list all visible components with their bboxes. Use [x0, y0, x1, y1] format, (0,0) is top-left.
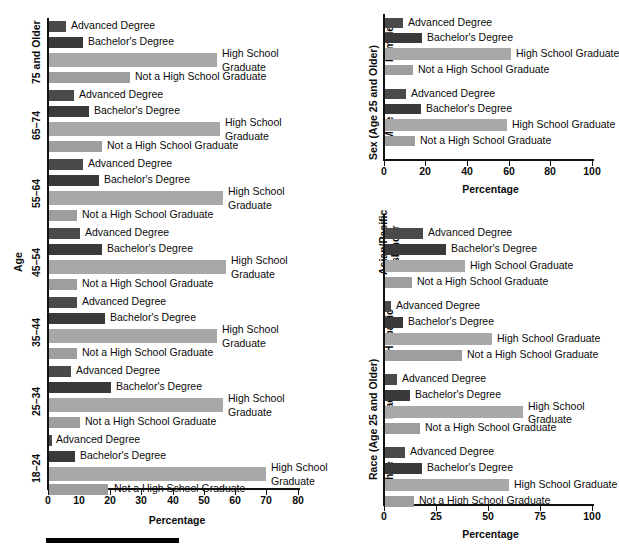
bar-age-55-hs — [49, 191, 223, 205]
age-ticklabel-50: 50 — [198, 495, 210, 506]
bar-race-black-hs — [385, 406, 523, 418]
age-ticklabel-20: 20 — [104, 495, 116, 506]
barlabel-race-white-hs: High School Graduate — [514, 479, 617, 491]
age-ticklabel-10: 10 — [73, 495, 85, 506]
sex-x-axis — [383, 159, 594, 161]
barlabel-age-45-bachelors: Bachelor's Degree — [107, 243, 193, 255]
bar-race-white-nohs — [385, 496, 414, 507]
bar-age-45-advanced — [49, 228, 80, 239]
bar-race-white-advanced — [385, 447, 405, 458]
sex-x-axis-title: Percentage — [428, 183, 553, 195]
sex-ticklabel-0: 0 — [381, 166, 387, 177]
bar-age-45-hs — [49, 260, 226, 274]
barlabel-age-65-advanced: Advanced Degree — [79, 89, 163, 101]
sex-plot-area: 0 20 40 60 80 100 Percentage Advanced De… — [383, 14, 598, 159]
barlabel-age-35-hs-line1: High School — [222, 324, 284, 336]
sex-ticklabel-80: 80 — [544, 166, 556, 177]
group-label-25-34: 25–34 — [30, 387, 42, 416]
barlabel-age-25-advanced: Advanced Degree — [76, 365, 160, 377]
chart-age: Age 75 and Older 65–74 55–64 45–54 35–44… — [0, 0, 340, 556]
bar-race-white-bachelors — [385, 463, 422, 474]
barlabel-age-35-nohs: Not a High School Graduate — [82, 347, 213, 359]
barlabel-age-55-hs-line1: High School — [228, 186, 290, 198]
barlabel-race-black-nohs: Not a High School Graduate — [425, 422, 556, 434]
barlabel-age-18-hs-line1: High School — [271, 462, 333, 474]
bar-sex-female-advanced — [385, 18, 403, 28]
bar-age-65-hs — [49, 122, 220, 136]
bar-age-35-nohs — [49, 348, 77, 359]
barlabel-age-55-bachelors: Bachelor's Degree — [104, 174, 190, 186]
bar-race-hispanic-nohs — [385, 350, 462, 361]
barlabel-age-18-hs-line2: Graduate — [271, 476, 333, 488]
barlabel-sex-male-nohs: Not a High School Graduate — [420, 135, 551, 147]
barlabel-age-25-hs-line1: High School — [228, 393, 290, 405]
bar-age-75-hs — [49, 53, 217, 67]
barlabel-race-api-bachelors: Bachelor's Degree — [451, 243, 537, 255]
bar-age-55-advanced — [49, 159, 83, 170]
bar-race-black-bachelors — [385, 390, 410, 401]
barlabel-sex-male-advanced: Advanced Degree — [411, 88, 495, 100]
barlabel-race-black-hs-line1: High School — [528, 401, 598, 413]
age-plot-area: 0 10 20 30 40 50 60 70 80 Percentage Adv… — [47, 18, 302, 488]
group-label-65-74: 65–74 — [30, 111, 42, 140]
bar-race-black-nohs — [385, 423, 420, 434]
barlabel-age-35-bachelors: Bachelor's Degree — [110, 312, 196, 324]
group-label-75-and-older: 75 and Older — [30, 20, 42, 84]
barlabel-race-black-bachelors: Bachelor's Degree — [415, 389, 501, 401]
bar-age-18-bachelors — [49, 451, 75, 462]
barlabel-age-18-nohs: Not a High School Graduate — [114, 483, 245, 495]
bar-sex-male-advanced — [385, 89, 406, 99]
barlabel-sex-female-nohs: Not a High School Graduate — [418, 64, 549, 76]
barlabel-age-55-nohs: Not a High School Graduate — [82, 209, 213, 221]
barlabel-age-55-hs-line2: Graduate — [228, 200, 290, 212]
age-ticklabel-60: 60 — [229, 495, 241, 506]
barlabel-sex-female-bachelors: Bachelor's Degree — [427, 32, 513, 44]
bar-sex-male-bachelors — [385, 104, 421, 114]
barlabel-age-45-nohs: Not a High School Graduate — [82, 278, 213, 290]
barlabel-age-18-bachelors: Bachelor's Degree — [80, 450, 166, 462]
age-axis-title: Age — [12, 252, 24, 272]
age-x-axis-title: Percentage — [107, 514, 247, 526]
footer-rule — [46, 538, 179, 543]
bar-age-65-bachelors — [49, 106, 89, 117]
race-ticklabel-25: 25 — [430, 511, 442, 522]
barlabel-age-55-advanced: Advanced Degree — [88, 158, 172, 170]
barlabel-sex-female-advanced: Advanced Degree — [408, 17, 492, 29]
bar-age-65-advanced — [49, 90, 74, 101]
group-label-45-54: 45–54 — [30, 248, 42, 277]
bar-race-hispanic-hs — [385, 333, 492, 345]
bar-sex-male-nohs — [385, 136, 415, 146]
barlabel-race-white-bachelors: Bachelor's Degree — [427, 462, 513, 474]
barlabel-sex-female-hs: High School Graduate — [516, 48, 619, 60]
sex-ticklabel-40: 40 — [461, 166, 473, 177]
barlabel-age-25-bachelors: Bachelor's Degree — [116, 381, 202, 393]
barlabel-age-18-advanced: Advanced Degree — [56, 434, 140, 446]
bar-age-25-advanced — [49, 366, 71, 377]
barlabel-age-25-nohs: Not a High School Graduate — [85, 416, 216, 428]
bar-sex-female-nohs — [385, 65, 413, 75]
barlabel-age-75-advanced: Advanced Degree — [71, 20, 155, 32]
bar-age-25-bachelors — [49, 382, 111, 393]
bar-age-18-advanced — [49, 435, 52, 446]
barlabel-age-25-hs-line2: Graduate — [228, 407, 290, 419]
bar-age-75-advanced — [49, 21, 66, 32]
bar-race-api-nohs — [385, 277, 412, 288]
age-ticklabel-0: 0 — [45, 495, 51, 506]
bar-race-hispanic-advanced — [385, 301, 391, 312]
race-ticklabel-100: 100 — [583, 511, 601, 522]
barlabel-age-75-hs-line1: High School — [222, 48, 284, 60]
age-ticklabel-40: 40 — [167, 495, 179, 506]
bar-age-65-nohs — [49, 141, 102, 152]
barlabel-race-white-advanced: Advanced Degree — [410, 446, 494, 458]
bar-age-55-bachelors — [49, 175, 99, 186]
bar-sex-male-hs — [385, 119, 507, 131]
barlabel-race-api-advanced: Advanced Degree — [428, 227, 512, 239]
race-ticklabel-75: 75 — [534, 511, 546, 522]
bar-age-45-nohs — [49, 279, 77, 290]
bar-age-18-hs — [49, 467, 266, 481]
bar-race-hispanic-bachelors — [385, 317, 403, 328]
bar-age-35-hs — [49, 329, 217, 343]
bar-age-55-nohs — [49, 210, 77, 221]
bar-race-black-advanced — [385, 374, 397, 385]
sex-axis-title: Sex (Age 25 and Older) — [367, 45, 379, 160]
